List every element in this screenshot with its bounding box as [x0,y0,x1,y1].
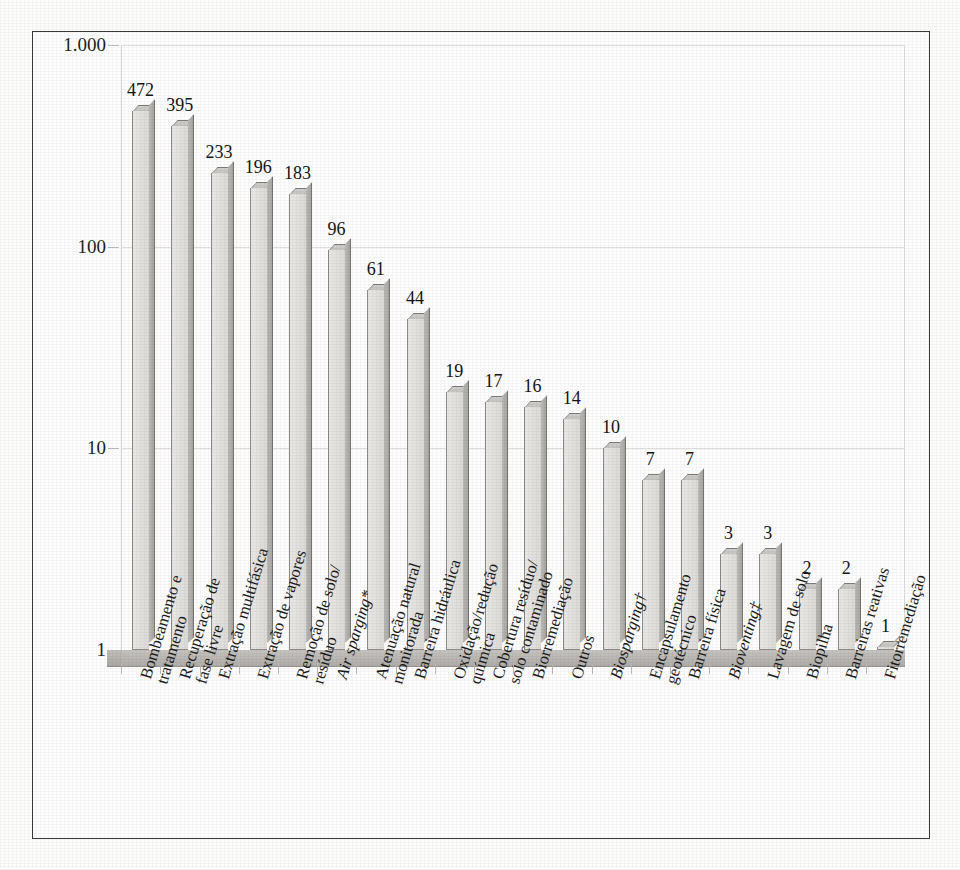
bar-slot: 3 [759,45,776,650]
bar-value-label: 10 [602,418,620,436]
bar-value-label: 16 [524,377,542,395]
figure-container: 1.000100101 4723952331961839661441917161… [0,0,960,870]
y-tick-label-100: 100 [78,237,107,256]
y-tick-mark [108,247,119,248]
y-tick-label-1: 1 [97,640,107,659]
bar-value-label: 19 [445,362,463,380]
bar-value-label: 183 [284,164,311,182]
bar-slot: 472 [132,45,149,650]
bar-slot: 10 [603,45,620,650]
bar-slot: 233 [211,45,228,650]
bar-value-label: 1 [881,617,890,635]
bar-value-label: 17 [484,372,502,390]
bar-value-label: 2 [842,559,851,577]
bar-slot: 14 [563,45,580,650]
bar-slot: 61 [367,45,384,650]
bar-value-label: 61 [367,260,385,278]
bar-value-label: 96 [328,220,346,238]
bar-slot: 2 [838,45,855,650]
bar-slot: 395 [171,45,188,650]
bar-value-label: 44 [406,289,424,307]
bar-value-label: 233 [206,143,233,161]
bar-slot: 3 [720,45,737,650]
bar-slot: 7 [681,45,698,650]
bar-14[interactable] [642,480,659,650]
y-tick-mark [108,448,119,449]
y-tick-label-10: 10 [87,438,106,457]
bar-value-label: 472 [127,81,154,99]
bar-slot: 17 [485,45,502,650]
bar-value-label: 395 [166,96,193,114]
bar-1[interactable] [132,111,149,650]
bar-slot: 2 [799,45,816,650]
bar-2[interactable] [171,126,188,650]
bar-17[interactable] [759,554,776,650]
y-tick-label-1.000: 1.000 [63,35,106,54]
bar-13[interactable] [603,448,620,650]
bar-value-label: 7 [685,450,694,468]
bar-slot: 7 [642,45,659,650]
bar-value-label: 7 [646,450,655,468]
bar-value-label: 196 [245,158,272,176]
bar-series: 47239523319618396614419171614107733221 [121,45,905,650]
y-axis: 1.000100101 [32,31,122,839]
bar-value-label: 14 [563,389,581,407]
bar-slot: 96 [328,45,345,650]
bar-value-label: 3 [724,524,733,542]
bar-slot: 44 [407,45,424,650]
bar-slot: 1 [877,45,894,650]
bar-value-label: 3 [763,524,772,542]
y-tick-mark [108,45,119,46]
